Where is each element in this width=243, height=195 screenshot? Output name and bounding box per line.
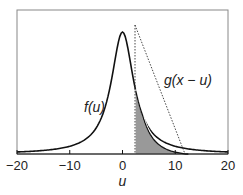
tick-label: 20 [221, 158, 235, 173]
f-curve [17, 32, 228, 152]
f-label: f(u) [84, 99, 105, 115]
tick-label: −10 [59, 158, 81, 173]
tick-label: −20 [6, 158, 28, 173]
g-label: g(x − u) [164, 72, 212, 88]
tick-label: 10 [168, 158, 182, 173]
tick-label: 0 [119, 158, 126, 173]
convolution-diagram: −20 −10 0 10 20 u f(u) g(x − u) [0, 0, 243, 195]
x-axis-label: u [119, 173, 127, 189]
